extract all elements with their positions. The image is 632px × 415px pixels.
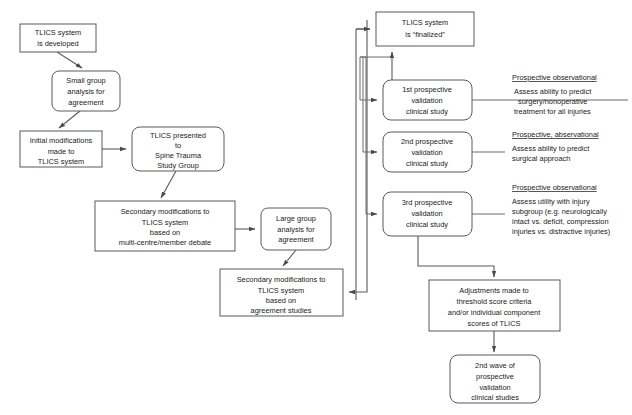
node-secondary-modifications-debate[interactable]: Secondary modifications to TLICS system … [95, 201, 235, 251]
node-initial-mods-line-2: TLICS system [38, 157, 84, 166]
node-finalized-line-1: is “finalized” [405, 30, 445, 39]
node-adjustments-threshold-score[interactable]: Adjustments made to threshold score crit… [429, 280, 560, 331]
node-tlics-developed[interactable]: TLICS system is developed [20, 24, 96, 52]
annotation-study-2-body-1: surgical approach [512, 154, 570, 163]
annotation-study-1-heading: Prospective observational [512, 73, 597, 82]
node-presented-line-3: Study Group [157, 161, 199, 170]
conn-trunk-to-agreementmods [349, 20, 367, 292]
node-large-group-line-0: Large group [276, 214, 316, 223]
node-study2-line-2: clinical study [406, 159, 448, 168]
annotation-study-3-body-2: intact vs. deficit, compression [512, 217, 609, 226]
conn-riser-study3 [366, 57, 377, 214]
node-tlics-developed-line-1: is developed [37, 39, 79, 48]
annotation-study-3-heading: Prospective observational [512, 183, 597, 192]
node-study3-line-1: validation [411, 209, 442, 218]
node-sec-debate-line-1: TLICS system [142, 218, 188, 227]
node-adjustments-line-1: threshold score criteria [457, 297, 533, 306]
conn-presented-to-secondarymods [161, 171, 176, 198]
node-sec-debate-line-0: Secondary modifications to [121, 207, 210, 216]
annotation-study-3-body-3: injuries vs. distractive injuries) [512, 227, 610, 236]
conn-largegroup-to-agreementmods [283, 250, 296, 266]
annotation-study-3-body-1: subgroup (e.g. neurologically [512, 207, 607, 216]
node-large-group-line-2: agreement [278, 235, 313, 244]
node-adjustments-line-3: scores of TLICS [468, 319, 521, 328]
conn-study3-to-adjustments [418, 236, 494, 277]
node-presented-line-2: Spine Trauma [155, 151, 202, 160]
node-study3-line-0: 3rd prospective [402, 198, 453, 207]
node-sec-agree-line-0: Secondary modifications to [237, 275, 326, 284]
node-secondwave-line-1: prospective [476, 372, 514, 381]
node-sec-agree-line-3: agreement studies [251, 306, 312, 315]
node-sec-agree-line-1: TLICS system [258, 286, 304, 295]
node-initial-mods-line-0: Initial modifications [30, 136, 93, 145]
node-initial-mods-line-1: made to [48, 147, 75, 156]
node-first-prospective-validation-clinical-study[interactable]: 1st prospective validation clinical stud… [383, 80, 472, 120]
flowchart-canvas: TLICS system is developed Small group an… [0, 0, 632, 415]
flowchart-svg: TLICS system is developed Small group an… [0, 0, 632, 415]
nodes-layer: TLICS system is developed Small group an… [20, 12, 560, 403]
node-finalized-line-0: TLICS system [402, 18, 448, 27]
node-adjustments-line-0: Adjustments made to [459, 286, 528, 295]
node-secondwave-line-3: clinical studies [471, 393, 519, 402]
node-sec-debate-line-3: multi-centre/member debate [119, 238, 211, 247]
annotation-study-3: Prospective observational Assess utility… [512, 183, 610, 236]
node-tlics-developed-line-0: TLICS system [35, 28, 81, 37]
node-tlics-presented-spine-trauma-study-group[interactable]: TLICS presented to Spine Trauma Study Gr… [132, 127, 224, 171]
node-study2-line-0: 2nd prospective [401, 137, 453, 146]
node-adjustments-line-2: and/or individual component [448, 308, 540, 317]
annotation-study-3-body-0: Assess utility with injury [512, 197, 590, 206]
node-small-group-line-2: agreement [68, 98, 103, 107]
node-secondwave-line-2: validation [479, 383, 510, 392]
annotation-study-1-body-0: Assess ability to predict [514, 87, 591, 96]
node-study1-line-0: 1st prospective [402, 85, 452, 94]
annotation-study-1: Prospective observational Assess ability… [512, 73, 597, 116]
node-second-wave-prospective-validation[interactable]: 2nd wave of prospective validation clini… [450, 355, 540, 403]
annotation-study-1-body-2: treatment for all injuries [514, 107, 591, 116]
node-study3-line-2: clinical study [406, 220, 448, 229]
node-small-group-line-0: Small group [66, 76, 105, 85]
node-sec-debate-line-2: based on [150, 228, 180, 237]
node-large-group-analysis[interactable]: Large group analysis for agreement [261, 208, 331, 250]
node-presented-line-0: TLICS presented [150, 131, 206, 140]
node-small-group-line-1: analysis for [67, 87, 105, 96]
node-secondary-modifications-agreement-studies[interactable]: Secondary modifications to TLICS system … [220, 269, 343, 316]
conn-smallgroup-to-initialmods [59, 111, 80, 128]
node-study1-line-1: validation [411, 96, 442, 105]
conn-developed-to-smallgroup [57, 52, 82, 68]
node-third-prospective-validation-clinical-study[interactable]: 3rd prospective validation clinical stud… [383, 192, 472, 236]
node-large-group-line-1: analysis for [277, 225, 315, 234]
node-study2-line-1: validation [411, 148, 442, 157]
node-tlics-finalized[interactable]: TLICS system is “finalized” [376, 12, 474, 46]
node-small-group-analysis[interactable]: Small group analysis for agreement [52, 71, 120, 111]
node-sec-agree-line-2: based on [266, 296, 296, 305]
node-initial-modifications[interactable]: Initial modifications made to TLICS syst… [20, 131, 102, 167]
annotation-study-2-heading: Prospective, abservational [512, 130, 599, 139]
node-second-prospective-validation-clinical-study[interactable]: 2nd prospective validation clinical stud… [383, 132, 472, 172]
annotation-study-2-body-0: Assess ability to predict [512, 144, 589, 153]
node-secondwave-line-0: 2nd wave of [475, 361, 516, 370]
conn-riser-study2 [363, 57, 377, 152]
annotation-study-2: Prospective, abservational Assess abilit… [512, 130, 599, 163]
node-presented-line-1: to [175, 141, 181, 150]
annotation-study-1-body-1: surgery/nonoperative [518, 97, 587, 106]
node-study1-line-2: clinical study [406, 107, 448, 116]
annotations-layer: Prospective observational Assess ability… [512, 73, 610, 236]
